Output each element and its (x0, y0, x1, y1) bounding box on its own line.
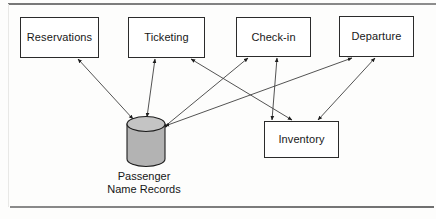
node-reservations[interactable]: Reservations (20, 17, 99, 58)
node-departure-label: Departure (352, 31, 402, 42)
node-reservations-label: Reservations (27, 32, 92, 43)
node-checkin-label: Check-in (251, 32, 295, 43)
node-inventory-label: Inventory (278, 134, 324, 145)
edge-reservations-pnr (78, 59, 133, 119)
edge-checkin-pnr (163, 58, 248, 128)
datastore-caption-line2: Name Records (96, 183, 192, 196)
node-ticketing[interactable]: Ticketing (128, 17, 205, 58)
datastore-pnr-caption: Passenger Name Records (96, 170, 192, 196)
node-checkin[interactable]: Check-in (236, 17, 311, 57)
datastore-caption-line1: Passenger (96, 170, 192, 183)
figure-canvas: Reservations Ticketing Check-in Departur… (0, 0, 436, 219)
node-inventory[interactable]: Inventory (264, 121, 339, 158)
datastore-pnr-cylinder[interactable] (124, 115, 168, 169)
edge-ticketing-pnr (147, 59, 155, 117)
cylinder-top (127, 117, 165, 132)
node-ticketing-label: Ticketing (144, 32, 189, 43)
node-departure[interactable]: Departure (339, 16, 414, 57)
edge-departure-pnr (165, 58, 352, 126)
